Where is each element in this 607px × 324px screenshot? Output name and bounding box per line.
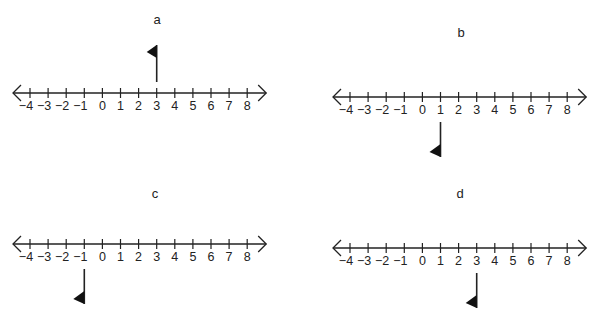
tick-label: −2 [375,103,389,117]
tick-label: 1 [437,103,444,117]
tick-label: 2 [455,254,462,268]
tick-label: 3 [153,99,160,113]
tick-label: 1 [437,254,444,268]
tick-label: 4 [171,250,178,264]
number-line-panel-d: −4−3−2−1012345678 [333,240,586,308]
tick-label: 3 [473,103,480,117]
tick-label: −3 [357,103,371,117]
tick-label: 8 [564,103,571,117]
number-line-panel-c: −4−3−2−1012345678 [13,236,266,304]
tick-label: −3 [37,250,51,264]
tick-label: −1 [73,250,87,264]
tick-label: 6 [528,103,535,117]
tick-label: 3 [153,250,160,264]
tick-label: −4 [19,99,33,113]
tick-label: 4 [491,103,498,117]
panel-label-c: c [152,186,159,201]
panel-label-b: b [457,25,464,40]
tick-label: −1 [73,99,87,113]
tick-label: 0 [419,254,426,268]
tick-label: −4 [339,254,353,268]
tick-label: −3 [37,99,51,113]
tick-label: 5 [509,103,516,117]
tick-label: 0 [99,99,106,113]
tick-label: 7 [226,250,233,264]
flag-icon [430,122,441,157]
tick-label: 6 [208,99,215,113]
number-line-panel-b: −4−3−2−1012345678 [333,89,586,157]
tick-label: 8 [564,254,571,268]
tick-label: 7 [226,99,233,113]
tick-label: −2 [55,99,69,113]
panel-label-a: a [153,12,160,27]
tick-label: 6 [528,254,535,268]
tick-label: 8 [244,250,251,264]
tick-label: 8 [244,99,251,113]
diagram-canvas: −4−3−2−1012345678−4−3−2−1012345678−4−3−2… [0,0,607,324]
tick-label: 2 [135,250,142,264]
tick-label: 1 [117,99,124,113]
tick-label: 2 [135,99,142,113]
tick-label: −1 [393,103,407,117]
tick-label: 5 [189,250,196,264]
tick-label: 3 [473,254,480,268]
number-line-panel-a: −4−3−2−1012345678 [13,45,266,113]
tick-label: −3 [357,254,371,268]
tick-label: 5 [509,254,516,268]
tick-label: −4 [19,250,33,264]
tick-label: 1 [117,250,124,264]
panel-label-d: d [456,186,463,201]
flag-icon [147,45,157,82]
tick-label: 6 [208,250,215,264]
tick-label: 0 [99,250,106,264]
tick-label: −4 [339,103,353,117]
tick-label: 7 [546,103,553,117]
tick-label: 0 [419,103,426,117]
tick-label: −1 [393,254,407,268]
tick-label: 4 [491,254,498,268]
flag-icon [466,273,477,308]
tick-label: −2 [375,254,389,268]
tick-label: 2 [455,103,462,117]
flag-icon [73,269,84,304]
tick-label: 7 [546,254,553,268]
tick-label: 4 [171,99,178,113]
tick-label: −2 [55,250,69,264]
tick-label: 5 [189,99,196,113]
